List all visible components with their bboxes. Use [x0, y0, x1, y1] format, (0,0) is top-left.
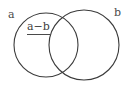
set-label-b: b	[114, 7, 121, 18]
venn-diagram-figure: a b a−b	[0, 0, 130, 86]
region-label-a-minus-b: a−b	[27, 21, 50, 35]
venn-diagram-canvas	[0, 0, 130, 86]
set-label-a: a	[8, 9, 15, 20]
circle-set-b	[49, 10, 119, 80]
